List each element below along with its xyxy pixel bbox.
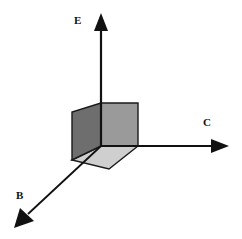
axis-label-c: C [203,117,211,128]
vertical-axis-arrowhead [94,13,108,31]
axis-label-b: B [16,190,23,201]
horizontal-axis-arrowhead [211,139,229,153]
depth-axis-line [28,146,101,214]
cube-front-face [101,103,138,146]
axes-cube-figure: E C B [0,0,242,239]
axis-label-e: E [74,15,81,26]
